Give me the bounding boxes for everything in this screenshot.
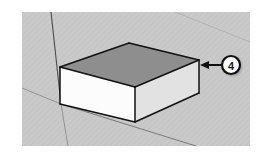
figure-root: 4 bbox=[0, 0, 262, 155]
callout-badge[interactable]: 4 bbox=[221, 55, 244, 78]
callout-badge-number: 4 bbox=[228, 60, 235, 72]
modeling-scene: 4 bbox=[0, 0, 262, 155]
